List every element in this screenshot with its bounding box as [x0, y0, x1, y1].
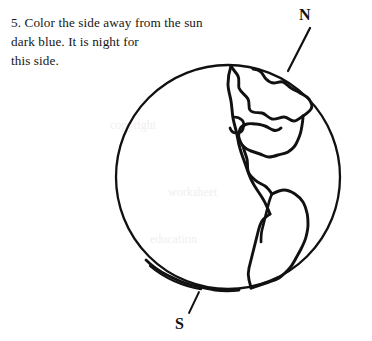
north-pole-label: N: [299, 7, 311, 23]
worksheet-page: copyright worksheet education 5. Color t…: [0, 0, 372, 341]
earth-globe-figure: [0, 0, 372, 341]
americas-west-coast: [228, 66, 270, 214]
south-america-west-coast: [248, 214, 270, 288]
south-america-outline: [251, 190, 308, 288]
south-pole-pointer-line: [189, 292, 199, 313]
north-pole-pointer-line: [288, 28, 310, 71]
globe-outline-circle: [116, 65, 340, 289]
south-pole-label: S: [175, 316, 184, 332]
